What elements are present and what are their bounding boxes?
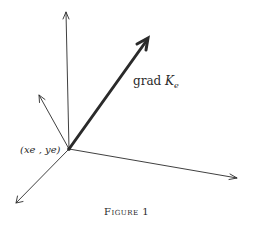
figure-caption: Figure 1 xyxy=(0,206,253,217)
grad-k-arrow xyxy=(69,38,148,149)
up-left-arrow xyxy=(39,95,69,149)
down-left-arrow xyxy=(16,149,69,203)
right-arrow xyxy=(69,149,237,180)
grad-k-label: grad Ke xyxy=(133,74,179,90)
vertical-up-arrow xyxy=(63,12,69,149)
point-label: (xe , ye) xyxy=(20,144,60,155)
origin-point xyxy=(67,147,71,151)
vector-diagram xyxy=(0,0,253,230)
